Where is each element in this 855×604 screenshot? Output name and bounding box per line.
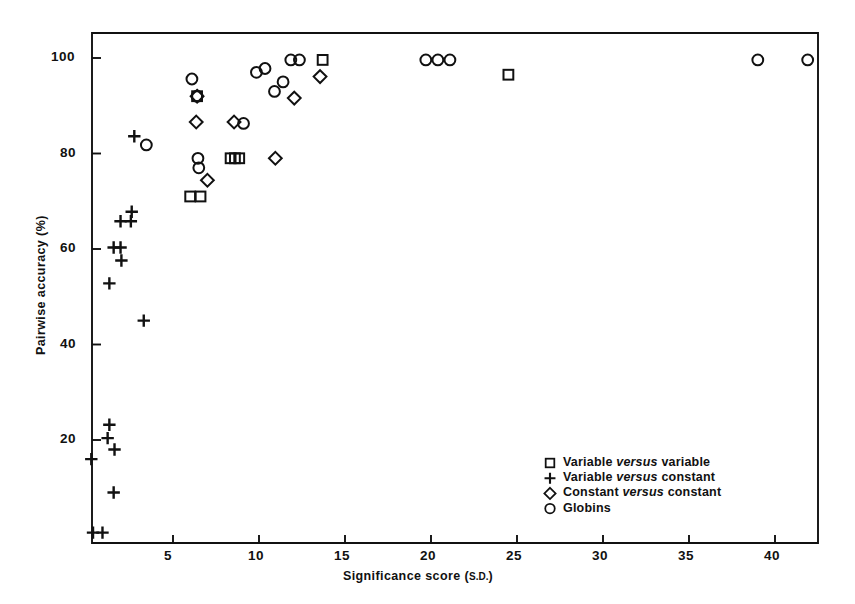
y-tick-label: 40 xyxy=(60,336,76,351)
y-tick-label: 100 xyxy=(51,49,75,64)
y-tick-label: 20 xyxy=(60,431,76,446)
legend-item-label: Variable versus constant xyxy=(563,470,715,484)
x-tick-label: 25 xyxy=(506,548,522,563)
x-tick-label: 40 xyxy=(764,548,780,563)
x-tick-label: 35 xyxy=(678,548,694,563)
y-tick-label: 80 xyxy=(60,145,76,160)
legend-item-label: Variable versus variable xyxy=(563,455,710,469)
y-axis-title: Pairwise accuracy (%) xyxy=(34,215,48,355)
y-tick-label: 60 xyxy=(60,240,76,255)
chart-root: 510152025303540 20406080100 Significance… xyxy=(0,0,855,604)
x-tick-label: 20 xyxy=(420,548,436,563)
x-tick-label: 10 xyxy=(248,548,264,563)
x-tick-label: 5 xyxy=(164,548,172,563)
legend-item-label: Constant versus constant xyxy=(563,485,721,499)
x-tick-label: 15 xyxy=(334,548,350,563)
legend-item-label: Globins xyxy=(563,501,611,515)
scatter-plot-figure xyxy=(0,0,855,604)
plot-background xyxy=(0,0,855,604)
x-axis-title: Significance score (S.D.) xyxy=(343,569,493,583)
x-tick-label: 30 xyxy=(592,548,608,563)
